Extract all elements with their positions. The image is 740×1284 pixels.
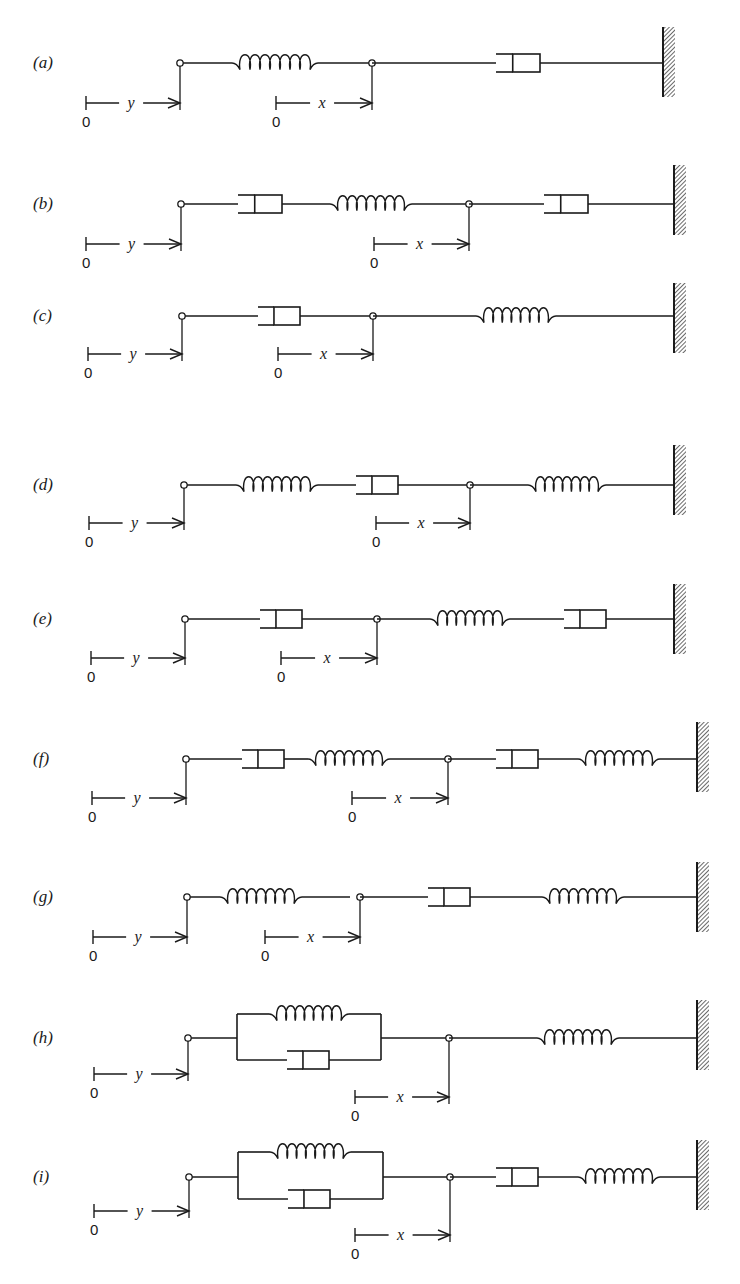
diagram-d: (d)y0x0 bbox=[33, 445, 686, 550]
origin-zero-label: 0 bbox=[88, 808, 96, 825]
diagram-label: (e) bbox=[33, 609, 52, 628]
variable-label: x bbox=[318, 94, 326, 111]
output-displacement-x: x0 bbox=[351, 1226, 450, 1262]
diagram-a: (a)y0x0 bbox=[33, 27, 675, 130]
dashpot bbox=[242, 750, 284, 768]
variable-label: x bbox=[394, 789, 402, 806]
spring-dashpot-figure: (a)y0x0(b)y0x0(c)y0x0(d)y0x0(e)y0x0(f)y0… bbox=[0, 0, 740, 1284]
diagram-label: (b) bbox=[33, 194, 53, 213]
dashpot-piston bbox=[274, 307, 300, 325]
dashpot-piston bbox=[276, 610, 302, 628]
spring-coil bbox=[269, 1006, 349, 1021]
output-displacement-x: x0 bbox=[272, 94, 372, 130]
spring bbox=[236, 477, 318, 492]
wall-hatching bbox=[697, 862, 709, 932]
wall-hatching bbox=[674, 584, 686, 654]
connection-node bbox=[179, 313, 185, 319]
spring bbox=[270, 1144, 351, 1159]
origin-zero-label: 0 bbox=[82, 113, 90, 130]
origin-zero-label: 0 bbox=[90, 1084, 98, 1101]
dashpot-piston bbox=[512, 1168, 538, 1186]
dashpot bbox=[564, 610, 606, 628]
connection-node bbox=[177, 60, 183, 66]
input-displacement-y: y0 bbox=[82, 94, 180, 130]
diagram-i: (i)y0x0 bbox=[33, 1140, 709, 1262]
dashpot-piston bbox=[255, 195, 282, 213]
fixed-wall bbox=[674, 283, 686, 353]
diagram-label: (h) bbox=[33, 1028, 53, 1047]
diagram-label: (i) bbox=[33, 1167, 49, 1186]
spring-coil bbox=[232, 55, 318, 70]
spring-coil bbox=[270, 1144, 351, 1159]
diagram-c: (c)y0x0 bbox=[33, 283, 686, 381]
connection-node bbox=[184, 894, 190, 900]
dashpot bbox=[356, 476, 398, 494]
variable-label: x bbox=[415, 235, 423, 252]
variable-label: y bbox=[132, 789, 142, 807]
fixed-wall bbox=[674, 165, 686, 235]
origin-zero-label: 0 bbox=[351, 1245, 359, 1262]
dashpot bbox=[496, 54, 540, 72]
origin-zero-label: 0 bbox=[372, 533, 380, 550]
connection-node bbox=[185, 1035, 191, 1041]
origin-zero-label: 0 bbox=[85, 533, 93, 550]
diagram-label: (a) bbox=[33, 53, 53, 72]
dashpot-piston bbox=[513, 54, 540, 72]
connection-node bbox=[182, 616, 188, 622]
parallel-spring-dashpot bbox=[238, 1144, 383, 1208]
diagram-label: (f) bbox=[33, 749, 49, 768]
spring bbox=[578, 751, 660, 766]
variable-label: x bbox=[323, 649, 331, 666]
diagram-h: (h)y0x0 bbox=[33, 1000, 709, 1124]
dashpot-piston bbox=[512, 750, 538, 768]
spring bbox=[430, 611, 510, 626]
diagram-f: (f)y0x0 bbox=[33, 722, 709, 825]
diagram-label: (g) bbox=[33, 887, 53, 906]
wall-hatching bbox=[697, 1000, 709, 1070]
spring-coil bbox=[236, 477, 318, 492]
spring-coil bbox=[220, 889, 302, 904]
fixed-wall bbox=[697, 1140, 709, 1210]
origin-zero-label: 0 bbox=[348, 808, 356, 825]
origin-zero-label: 0 bbox=[272, 113, 280, 130]
variable-label: x bbox=[396, 1088, 404, 1105]
spring bbox=[220, 889, 302, 904]
connection-node bbox=[178, 201, 184, 207]
wall-hatching bbox=[697, 722, 709, 792]
dashpot-piston bbox=[372, 476, 398, 494]
wall-hatching bbox=[674, 165, 686, 235]
spring-coil bbox=[578, 751, 660, 766]
input-displacement-y: y0 bbox=[90, 1065, 188, 1101]
origin-zero-label: 0 bbox=[274, 364, 282, 381]
spring bbox=[476, 308, 556, 323]
dashpot bbox=[258, 307, 300, 325]
variable-label: y bbox=[131, 649, 141, 667]
output-displacement-x: x0 bbox=[370, 235, 469, 271]
fixed-wall bbox=[674, 584, 686, 654]
input-displacement-y: y0 bbox=[88, 789, 186, 825]
output-displacement-x: x0 bbox=[372, 514, 470, 550]
dashpot bbox=[544, 195, 588, 213]
input-displacement-y: y0 bbox=[87, 649, 185, 685]
connection-node bbox=[183, 756, 189, 762]
origin-zero-label: 0 bbox=[84, 364, 92, 381]
variable-label: x bbox=[306, 928, 314, 945]
spring-coil bbox=[537, 1030, 619, 1045]
spring-coil bbox=[330, 196, 412, 211]
spring bbox=[232, 55, 318, 70]
spring bbox=[578, 1169, 660, 1184]
output-displacement-x: x0 bbox=[351, 1088, 449, 1124]
input-displacement-y: y0 bbox=[82, 235, 181, 271]
input-displacement-y: y0 bbox=[84, 345, 182, 381]
spring-coil bbox=[430, 611, 510, 626]
dashpot bbox=[287, 1051, 329, 1069]
dashpot bbox=[428, 888, 470, 906]
origin-zero-label: 0 bbox=[89, 947, 97, 964]
wall-hatching bbox=[697, 1140, 709, 1210]
spring bbox=[528, 477, 606, 492]
spring bbox=[537, 1030, 619, 1045]
spring-coil bbox=[542, 889, 624, 904]
diagram-b: (b)y0x0 bbox=[33, 165, 686, 271]
dashpot-piston bbox=[580, 610, 606, 628]
dashpot-piston bbox=[561, 195, 588, 213]
